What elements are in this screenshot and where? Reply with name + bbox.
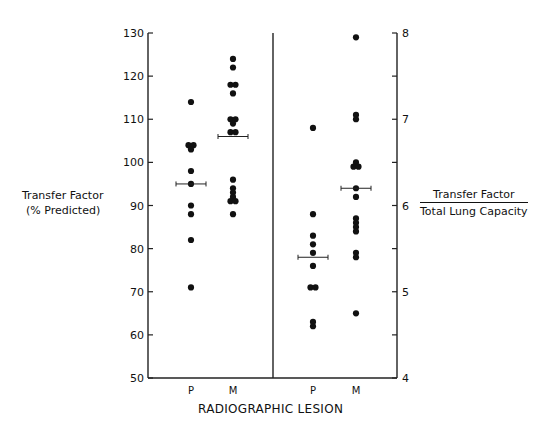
left-data-point-P — [188, 168, 194, 174]
right-y-tick-label: 8 — [402, 27, 409, 40]
right-data-point-M — [355, 164, 361, 170]
left-y-axis-label-line1: Transfer Factor — [22, 188, 103, 203]
right-y-tick-label: 5 — [402, 286, 409, 299]
left-data-point-P — [188, 237, 194, 243]
left-data-point-M — [230, 56, 236, 62]
right-data-point-P — [310, 263, 316, 269]
left-data-point-P — [188, 211, 194, 217]
left-data-point-P — [188, 99, 194, 105]
left-data-point-M — [232, 129, 238, 135]
left-y-tick-label: 70 — [130, 286, 144, 299]
right-data-point-M — [353, 228, 359, 234]
right-y-axis-label: Transfer Factor Total Lung Capacity — [420, 188, 528, 218]
right-y-tick-label: 4 — [402, 372, 409, 385]
left-data-point-M — [230, 90, 236, 96]
left-data-point-P — [188, 284, 194, 290]
left-data-point-M — [232, 82, 238, 88]
right-data-point-P — [310, 233, 316, 239]
left-y-tick-label: 90 — [130, 200, 144, 213]
left-data-point-M — [230, 64, 236, 70]
right-y-axis-label-numerator: Transfer Factor — [420, 188, 528, 203]
scatter-chart: 5060708090100110120130PM45678PM Transfer… — [0, 0, 560, 438]
left-y-tick-label: 130 — [123, 27, 144, 40]
plot-area: 5060708090100110120130PM45678PM — [0, 0, 560, 438]
right-data-point-M — [353, 116, 359, 122]
left-data-point-P — [188, 146, 194, 152]
right-data-point-P — [310, 323, 316, 329]
x-axis-label: RADIOGRAPHIC LESION — [198, 402, 343, 416]
right-y-axis-label-denominator: Total Lung Capacity — [420, 203, 528, 218]
right-data-point-P — [310, 125, 316, 131]
left-y-tick-label: 50 — [130, 372, 144, 385]
left-y-axis-label-line2: (% Predicted) — [22, 203, 103, 218]
left-category-label-M: M — [229, 385, 238, 396]
left-y-tick-label: 80 — [130, 243, 144, 256]
right-data-point-M — [353, 34, 359, 40]
right-data-point-P — [310, 241, 316, 247]
right-y-tick-label: 6 — [402, 200, 409, 213]
left-data-point-M — [232, 198, 238, 204]
right-data-point-M — [353, 310, 359, 316]
left-y-axis-label: Transfer Factor (% Predicted) — [22, 188, 103, 218]
left-y-tick-label: 60 — [130, 329, 144, 342]
right-category-label-P: P — [310, 385, 316, 396]
left-category-label-P: P — [188, 385, 194, 396]
right-y-tick-label: 7 — [402, 113, 409, 126]
left-data-point-M — [230, 120, 236, 126]
right-data-point-P — [312, 284, 318, 290]
right-data-point-M — [353, 194, 359, 200]
left-data-point-M — [230, 211, 236, 217]
left-data-point-P — [188, 202, 194, 208]
right-data-point-P — [310, 211, 316, 217]
left-data-point-M — [230, 177, 236, 183]
right-category-label-M: M — [352, 385, 361, 396]
left-y-tick-label: 100 — [123, 156, 144, 169]
left-y-tick-label: 110 — [123, 113, 144, 126]
right-data-point-M — [353, 254, 359, 260]
right-data-point-P — [310, 250, 316, 256]
left-y-tick-label: 120 — [123, 70, 144, 83]
